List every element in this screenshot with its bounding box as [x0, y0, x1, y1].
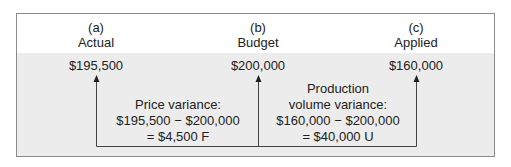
note-line: volume variance: [262, 97, 414, 113]
note-line: $195,500 − $200,000 [110, 113, 246, 129]
note-line: = $4,500 F [110, 129, 246, 145]
volume-variance-note: Production volume variance: $160,000 − $… [262, 81, 414, 145]
note-line: Production [262, 81, 414, 97]
note-line: = $40,000 U [262, 129, 414, 145]
arrow-up-icon [414, 75, 420, 82]
note-line: $160,000 − $200,000 [262, 113, 414, 129]
note-line: Price variance: [110, 97, 246, 113]
arrow-up-icon [94, 75, 100, 82]
variance-connector-lines [0, 0, 511, 167]
price-variance-note: Price variance: $195,500 − $200,000 = $4… [110, 97, 246, 145]
arrow-up-icon [256, 75, 262, 82]
